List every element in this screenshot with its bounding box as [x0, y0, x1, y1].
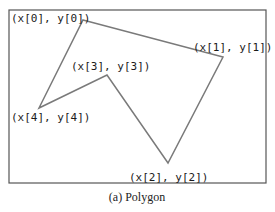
vertex-label-1: (x[1], y[1]): [193, 41, 272, 54]
figure-caption: (a) Polygon: [109, 190, 165, 204]
vertex-label-2: (x[2], y[2]): [129, 171, 208, 184]
polygon-figure: (x[0], y[0]) (x[1], y[1]) (x[2], y[2]) (…: [0, 0, 275, 212]
vertex-label-0: (x[0], y[0]): [11, 12, 90, 25]
figure-frame: [9, 10, 266, 183]
vertex-label-3: (x[3], y[3]): [71, 60, 150, 73]
vertex-label-4: (x[4], y[4]): [11, 111, 90, 124]
